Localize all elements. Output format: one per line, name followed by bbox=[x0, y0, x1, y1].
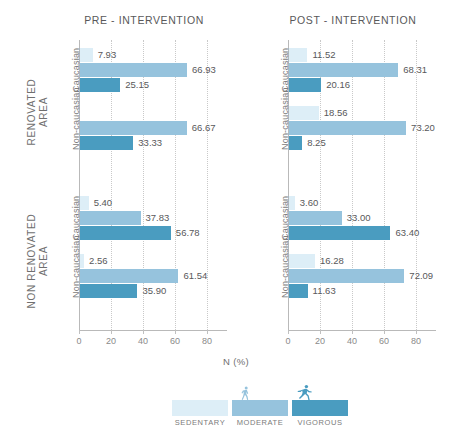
bar-moderate bbox=[289, 211, 342, 225]
bar-value-label: 2.56 bbox=[89, 254, 108, 268]
bar-value-label: 11.52 bbox=[312, 48, 335, 62]
gridline bbox=[384, 40, 385, 330]
running-person-icon bbox=[294, 384, 314, 406]
bar-moderate bbox=[289, 121, 406, 135]
row-label-caucasian: Caucasian bbox=[71, 196, 81, 240]
legend-label-vigorous: VIGOROUS bbox=[286, 418, 354, 427]
bar-vigorous bbox=[289, 136, 302, 150]
panel-title-pre: PRE - INTERVENTION bbox=[78, 14, 210, 26]
bar-sedentary bbox=[80, 48, 93, 62]
x-axis-tick-label: 40 bbox=[342, 336, 362, 346]
bar-moderate bbox=[80, 63, 187, 77]
bar-sedentary bbox=[289, 254, 315, 268]
panel-title-post: POST - INTERVENTION bbox=[287, 14, 419, 26]
gridline bbox=[416, 40, 417, 330]
bar-sedentary bbox=[80, 196, 89, 210]
x-axis-tick-label: 60 bbox=[374, 336, 394, 346]
x-axis-line bbox=[79, 330, 227, 331]
x-axis-tick-label: 80 bbox=[406, 336, 426, 346]
x-axis-tick bbox=[175, 330, 176, 334]
bar-value-label: 37.83 bbox=[146, 211, 170, 225]
bar-moderate bbox=[289, 269, 404, 283]
bar-value-label: 18.56 bbox=[324, 106, 348, 120]
bar-value-label: 63.40 bbox=[395, 226, 419, 240]
x-axis-tick-label: 0 bbox=[278, 336, 298, 346]
area-label-line2: AREA bbox=[38, 97, 49, 127]
bar-value-label: 16.28 bbox=[320, 254, 344, 268]
bar-moderate bbox=[289, 63, 398, 77]
bar-value-label: 20.16 bbox=[326, 78, 350, 92]
x-axis-tick bbox=[288, 330, 289, 334]
gridline bbox=[175, 40, 176, 330]
bar-value-label: 66.67 bbox=[192, 121, 216, 135]
x-axis-tick-label: 80 bbox=[197, 336, 217, 346]
bar-value-label: 7.93 bbox=[98, 48, 117, 62]
bar-vigorous bbox=[289, 78, 321, 92]
bar-value-label: 68.31 bbox=[403, 63, 427, 77]
bar-value-label: 33.00 bbox=[347, 211, 371, 225]
gridline bbox=[207, 40, 208, 330]
area-label-non-renovated: NON RENOVATEDAREA bbox=[26, 192, 50, 330]
row-label-caucasian: Caucasian bbox=[280, 48, 290, 92]
bar-value-label: 35.90 bbox=[142, 284, 166, 298]
bar-value-label: 66.93 bbox=[192, 63, 216, 77]
bar-value-label: 73.20 bbox=[411, 121, 435, 135]
bar-value-label: 8.25 bbox=[307, 136, 326, 150]
walking-person-icon bbox=[238, 386, 254, 406]
bar-value-label: 33.33 bbox=[138, 136, 162, 150]
row-label-non-caucasian: Non-caucasian bbox=[280, 106, 290, 150]
bar-value-label: 61.54 bbox=[183, 269, 207, 283]
bar-moderate bbox=[80, 211, 141, 225]
x-axis-tick bbox=[111, 330, 112, 334]
gridline bbox=[352, 40, 353, 330]
legend-label-sedentary: SEDENTARY bbox=[166, 418, 234, 427]
bar-vigorous bbox=[80, 226, 171, 240]
bar-value-label: 56.78 bbox=[176, 226, 200, 240]
x-axis-line bbox=[288, 330, 436, 331]
x-axis-tick bbox=[143, 330, 144, 334]
area-label-line2: AREA bbox=[38, 246, 49, 276]
bar-value-label: 3.60 bbox=[300, 196, 319, 210]
bar-vigorous bbox=[80, 136, 133, 150]
bar-value-label: 72.09 bbox=[409, 269, 433, 283]
row-label-caucasian: Caucasian bbox=[71, 48, 81, 92]
bar-vigorous bbox=[289, 284, 308, 298]
legend: SEDENTARYMODERATEVIGOROUS bbox=[0, 386, 472, 430]
bar-vigorous bbox=[80, 78, 120, 92]
area-label-line1: RENOVATED bbox=[26, 78, 37, 145]
chart-root: PRE - INTERVENTION POST - INTERVENTION 0… bbox=[0, 0, 472, 442]
row-label-non-caucasian: Non-caucasian bbox=[280, 254, 290, 298]
legend-swatch-sedentary bbox=[172, 400, 228, 416]
x-axis-tick bbox=[384, 330, 385, 334]
x-axis-tick-label: 60 bbox=[165, 336, 185, 346]
bar-moderate bbox=[80, 269, 178, 283]
bar-sedentary bbox=[289, 106, 319, 120]
legend-label-moderate: MODERATE bbox=[226, 418, 294, 427]
area-label-line1: NON RENOVATED bbox=[26, 214, 37, 309]
bar-value-label: 5.40 bbox=[94, 196, 113, 210]
bar-value-label: 11.63 bbox=[313, 284, 336, 298]
row-label-caucasian: Caucasian bbox=[280, 196, 290, 240]
row-label-non-caucasian: Non-caucasian bbox=[71, 106, 81, 150]
bar-moderate bbox=[80, 121, 187, 135]
bar-vigorous bbox=[289, 226, 390, 240]
row-label-non-caucasian: Non-caucasian bbox=[71, 254, 81, 298]
bar-vigorous bbox=[80, 284, 137, 298]
area-label-renovated: RENOVATEDAREA bbox=[26, 44, 50, 180]
x-axis-tick bbox=[320, 330, 321, 334]
x-axis-tick bbox=[207, 330, 208, 334]
x-axis-tick-label: 0 bbox=[69, 336, 89, 346]
x-axis-tick-label: 20 bbox=[310, 336, 330, 346]
x-axis-caption: N (%) bbox=[0, 356, 472, 367]
x-axis-tick bbox=[79, 330, 80, 334]
x-axis-tick bbox=[416, 330, 417, 334]
x-axis-tick bbox=[352, 330, 353, 334]
bar-sedentary bbox=[289, 48, 307, 62]
x-axis-tick-label: 20 bbox=[101, 336, 121, 346]
x-axis-tick-label: 40 bbox=[133, 336, 153, 346]
bar-value-label: 25.15 bbox=[125, 78, 149, 92]
